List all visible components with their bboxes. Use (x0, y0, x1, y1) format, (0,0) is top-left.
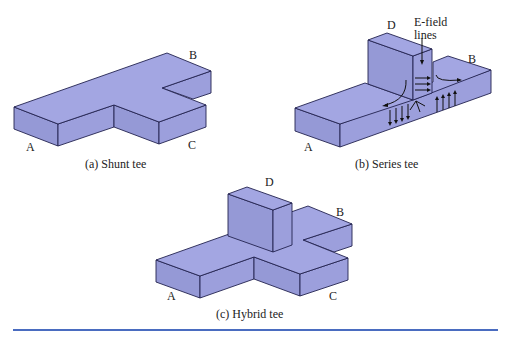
annotation-lines: lines (414, 29, 437, 42)
port-label-a: A (26, 141, 35, 153)
port-label-b: B (336, 206, 344, 218)
port-label-d: D (387, 19, 396, 31)
hybrid-tee-shape (156, 187, 352, 298)
divider-rule (13, 329, 498, 331)
port-label-c: C (329, 290, 337, 302)
series-tee-shape (295, 33, 491, 147)
port-label-b: B (468, 53, 476, 65)
port-label-b: B (189, 49, 197, 61)
caption-series-tee: (b) Series tee (355, 158, 418, 171)
port-label-d: D (265, 176, 274, 188)
caption-hybrid-tee: (c) Hybrid tee (216, 308, 283, 321)
caption-shunt-tee: (a) Shunt tee (85, 158, 146, 171)
port-label-a: A (304, 141, 313, 153)
port-label-a: A (167, 290, 176, 302)
port-label-c: C (188, 139, 196, 151)
shunt-tee-shape (14, 53, 211, 146)
waveguide-diagrams (0, 0, 509, 340)
